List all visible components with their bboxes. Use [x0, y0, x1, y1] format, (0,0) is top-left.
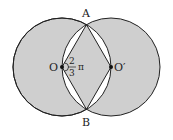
label-b: B — [82, 116, 90, 129]
label-o-prime: O′ — [114, 61, 126, 74]
point-o — [60, 65, 64, 69]
angle-numerator: 2 — [69, 56, 75, 66]
label-a: A — [81, 7, 91, 20]
point-o-prime — [109, 65, 113, 69]
two-circles-diagram: A B O O′ 2 3 π — [0, 0, 173, 140]
angle-denominator: 3 — [69, 68, 75, 78]
label-o: O — [49, 61, 58, 74]
angle-pi: π — [78, 62, 84, 72]
